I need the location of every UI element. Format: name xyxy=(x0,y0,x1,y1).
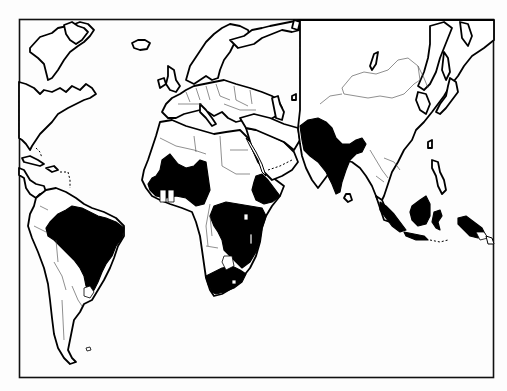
asia-mainland xyxy=(298,20,494,204)
iceland xyxy=(132,40,150,50)
lesotho xyxy=(232,280,236,284)
africa-middle-east xyxy=(142,114,300,296)
asia xyxy=(298,20,494,222)
indonesia-oceania xyxy=(380,196,494,244)
ireland xyxy=(158,78,166,88)
novaya-zemlya xyxy=(292,20,300,30)
hispaniola xyxy=(46,166,58,172)
south-america xyxy=(28,188,124,364)
scandinavia xyxy=(186,24,250,84)
lesser-antilles xyxy=(60,172,70,188)
north-america xyxy=(19,22,150,198)
sri-lanka xyxy=(344,194,352,202)
north-america-mainland xyxy=(19,82,96,150)
bahamas xyxy=(36,148,42,158)
lake-victoria xyxy=(244,214,248,220)
sulawesi-highlighted xyxy=(432,210,442,230)
togo-benin xyxy=(168,190,174,202)
map-svg xyxy=(0,0,507,391)
great-britain xyxy=(166,66,180,92)
lesser-sunda-islands xyxy=(430,240,448,242)
taiwan xyxy=(428,140,432,148)
world-map xyxy=(0,0,507,391)
europe xyxy=(158,20,300,126)
borneo-highlighted xyxy=(410,196,430,226)
cuba xyxy=(22,156,44,166)
java-highlighted xyxy=(404,232,428,240)
philippines xyxy=(432,160,446,194)
aral-sea xyxy=(292,94,296,100)
ghana xyxy=(160,190,166,202)
falklands xyxy=(86,347,91,351)
lake-malawi xyxy=(250,234,252,244)
